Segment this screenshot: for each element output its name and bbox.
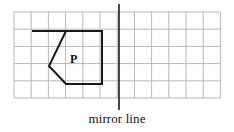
mirror-line-label: mirror line [0, 111, 234, 127]
shape-label-p: P [70, 52, 77, 67]
